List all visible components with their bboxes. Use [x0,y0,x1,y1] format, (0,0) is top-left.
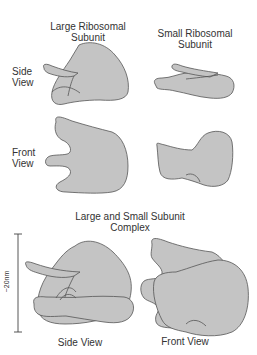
ribosome-diagram: Large Ribosomal Subunit Small Ribosomal … [0,0,257,355]
diagram-shapes [0,0,257,355]
complex-side-view-shape [25,241,133,324]
large-subunit-front-view-shape [46,117,129,193]
large-subunit-side-view-shape [43,43,128,105]
small-subunit-front-view-shape [157,131,233,186]
scale-bar [14,234,22,332]
small-subunit-side-view-shape [154,64,234,98]
complex-front-view-shape [141,239,249,336]
